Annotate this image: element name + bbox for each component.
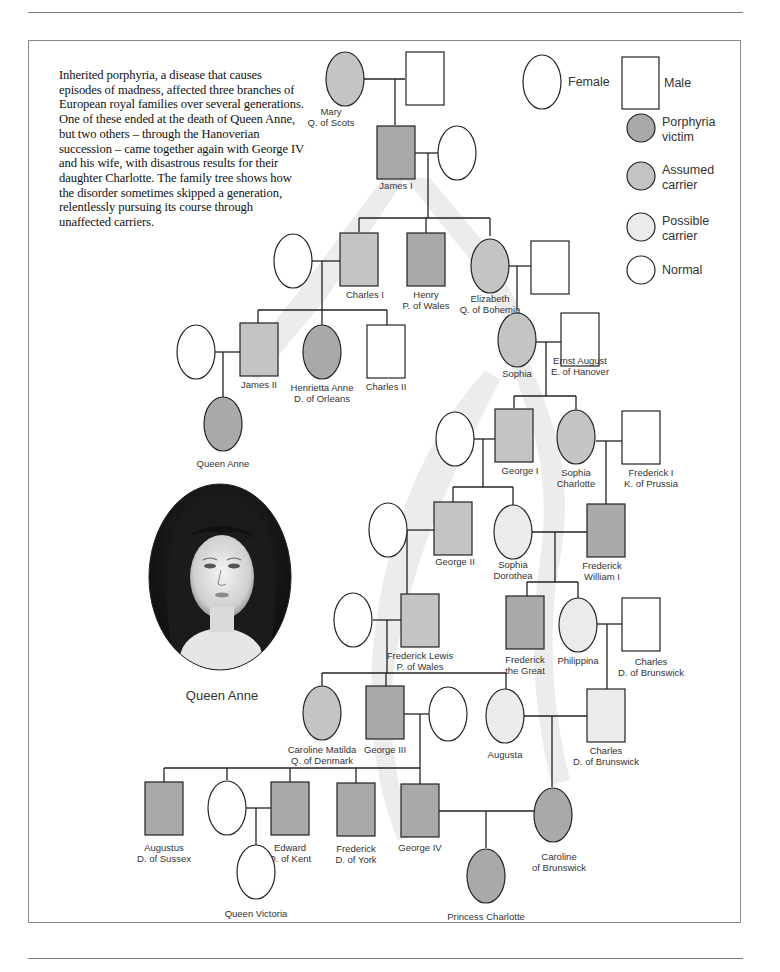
- male-symbol: [401, 784, 439, 837]
- legend-label: victim: [662, 130, 694, 144]
- person-george3: George III: [364, 686, 406, 755]
- legend-label: carrier: [662, 178, 697, 192]
- male-symbol: [531, 241, 569, 294]
- person-label: P. of Wales: [397, 661, 444, 672]
- person-label: Edward: [274, 842, 306, 853]
- legend-female-label: Female: [568, 75, 610, 89]
- legend-swatch-icon: [627, 162, 655, 190]
- person-label: D. of Sussex: [137, 853, 191, 864]
- person-label: Sophia: [498, 559, 528, 570]
- female-symbol: [486, 689, 524, 743]
- female-symbol: [303, 686, 341, 740]
- male-symbol: [622, 598, 660, 651]
- person-label: James II: [241, 379, 277, 390]
- person-augustus: AugustusD. of Sussex: [137, 782, 191, 864]
- male-symbol: [271, 782, 309, 835]
- person-sophia: Sophia: [498, 313, 536, 379]
- person-charles1: Charles I: [340, 233, 384, 300]
- person-frederick1: Frederick IK. of Prussia: [622, 411, 679, 489]
- male-symbol: [377, 126, 415, 179]
- person-label: Mary: [320, 106, 341, 117]
- person-label: Queen Victoria: [225, 908, 288, 919]
- male-symbol: [401, 594, 439, 647]
- person-princess-charlotte: Princess Charlotte: [447, 849, 525, 922]
- person-label: Charles II: [366, 381, 407, 392]
- person-label: Frederick: [336, 843, 376, 854]
- person-label: Sophia: [502, 368, 532, 379]
- person-henrietta: Henrietta AnneD. of Orleans: [291, 325, 354, 404]
- legend-male-symbol: [622, 57, 659, 109]
- person-charles1-spouse: [274, 234, 312, 288]
- male-symbol: [587, 504, 625, 557]
- portrait-caption: Queen Anne: [186, 688, 258, 703]
- person-label: D. of Brunswick: [573, 756, 639, 767]
- person-elizabeth-spouse: [531, 241, 569, 294]
- person-george1-spouse: [436, 412, 474, 466]
- female-symbol: [494, 505, 532, 559]
- person-label: Charles: [635, 656, 668, 667]
- legend-label: Normal: [662, 263, 702, 277]
- person-queen-anne: Queen Anne: [197, 397, 250, 469]
- person-label: Dorothea: [493, 570, 533, 581]
- female-symbol: [429, 687, 467, 741]
- female-symbol: [534, 788, 572, 842]
- male-symbol: [495, 409, 533, 462]
- portrait-image: [148, 482, 293, 672]
- male-symbol: [587, 689, 625, 742]
- female-symbol: [326, 52, 364, 106]
- male-symbol: [434, 502, 472, 555]
- legend-item-victim: Porphyriavictim: [627, 114, 716, 144]
- person-label: James I: [379, 180, 412, 191]
- person-label: D. of York: [335, 854, 376, 865]
- person-label: Sophia: [561, 467, 591, 478]
- person-frederick-york: FrederickD. of York: [335, 783, 376, 865]
- person-label: Elizabeth: [470, 293, 509, 304]
- person-label: D. of Kent: [269, 853, 312, 864]
- legend-female-symbol: [523, 55, 561, 109]
- legend-swatch-icon: [627, 256, 655, 284]
- person-george2: George II: [434, 502, 475, 567]
- person-fw1: FrederickWilliam I: [582, 504, 625, 582]
- female-symbol: [557, 410, 595, 464]
- person-label: Frederick: [505, 654, 545, 665]
- person-george1: George I: [495, 409, 538, 476]
- person-label: Caroline: [541, 851, 576, 862]
- male-symbol: [506, 596, 544, 649]
- person-label: George II: [435, 556, 475, 567]
- person-charles2: Charles II: [366, 325, 407, 392]
- legend-label: carrier: [662, 229, 697, 243]
- person-label: D. of Orleans: [294, 393, 350, 404]
- person-augusta: Augusta: [486, 689, 524, 760]
- person-james1: James I: [377, 126, 415, 191]
- legend-label: Possible: [662, 214, 709, 228]
- male-symbol: [240, 323, 278, 376]
- female-symbol: [436, 412, 474, 466]
- person-label: George III: [364, 744, 406, 755]
- female-symbol: [369, 503, 407, 557]
- legend-item-assumed-carrier: Assumedcarrier: [627, 162, 714, 192]
- person-label: Ernst August: [553, 355, 607, 366]
- person-label: Queen Anne: [197, 458, 250, 469]
- person-henry: HenryP. of Wales: [403, 233, 450, 311]
- legend-item-normal: Normal: [627, 256, 702, 284]
- person-label: the Great: [505, 665, 545, 676]
- person-caroline-matilda: Caroline MatildaQ. of Denmark: [288, 686, 357, 766]
- person-sophia-charlotte: SophiaCharlotte: [557, 410, 596, 489]
- person-label: William I: [584, 571, 620, 582]
- person-james2-spouse: [177, 325, 215, 379]
- person-charles-db2: CharlesD. of Brunswick: [573, 689, 639, 767]
- person-label: Princess Charlotte: [447, 911, 525, 922]
- male-symbol: [367, 325, 405, 378]
- female-symbol: [467, 849, 505, 903]
- female-symbol: [471, 239, 509, 293]
- male-symbol: [337, 783, 375, 836]
- person-label: George I: [502, 465, 539, 476]
- legend-label: Porphyria: [662, 115, 716, 129]
- person-mary: MaryQ. of Scots: [308, 52, 365, 128]
- female-symbol: [204, 397, 242, 451]
- legend-swatch-icon: [627, 213, 655, 241]
- person-label: Augusta: [488, 749, 524, 760]
- person-label: of Brunswick: [532, 862, 586, 873]
- person-label: Henry: [413, 289, 439, 300]
- person-label: Frederick: [582, 560, 622, 571]
